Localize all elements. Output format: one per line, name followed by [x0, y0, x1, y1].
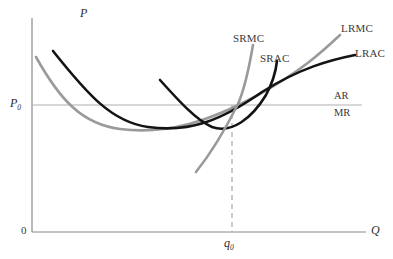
x-axis-label: Q	[371, 224, 380, 236]
label-marginal-revenue: MR	[334, 108, 350, 119]
origin-label: 0	[21, 225, 27, 236]
label-average-revenue: AR	[334, 91, 349, 102]
curve-lrmc	[36, 35, 340, 130]
curve-label-lrmc: LRMC	[341, 23, 373, 34]
curve-label-srac: SRAC	[260, 53, 290, 64]
economics-diagram: P Q 0 P0 q0 SRMC SRAC LRMC LRAC AR MR	[0, 0, 393, 259]
curve-label-srmc: SRMC	[233, 33, 264, 44]
curve-label-lrac: LRAC	[355, 48, 385, 59]
price-p0-label: P0	[10, 97, 21, 112]
quantity-q0-label: q0	[224, 237, 234, 252]
curve-srmc	[196, 45, 253, 172]
plot-canvas	[0, 0, 393, 259]
quantity-q0-subscript: 0	[230, 243, 234, 252]
y-axis-label: P	[80, 7, 87, 19]
price-p0-subscript: 0	[17, 103, 21, 112]
